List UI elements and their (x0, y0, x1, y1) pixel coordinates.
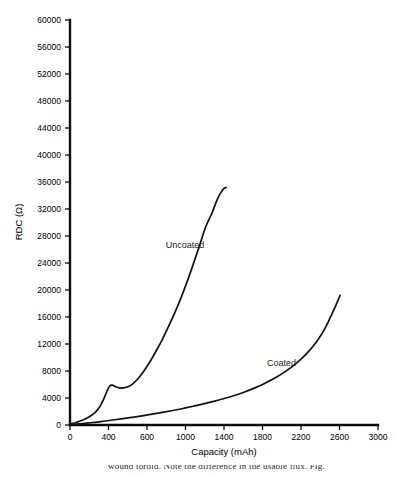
x-tick-label: 1800 (253, 432, 272, 442)
x-tick-label: 3000 (369, 432, 388, 442)
y-tick-label: 60000 (37, 15, 61, 25)
series-label-uncoated: Uncoated (166, 240, 205, 250)
y-axis-tick-labels: 0400080001200016000200002400028000320003… (37, 15, 61, 430)
y-tick-label: 44000 (37, 123, 61, 133)
series-label-coated: Coated (267, 358, 296, 368)
y-tick-label: 40000 (37, 150, 61, 160)
y-tick-label: 12000 (37, 339, 61, 349)
x-axis-title: Capacity (mAh) (191, 446, 256, 457)
x-tick-label: 600 (140, 432, 154, 442)
y-tick-label: 52000 (37, 69, 61, 79)
y-tick-label: 32000 (37, 204, 61, 214)
x-tick-label: 1400 (215, 432, 234, 442)
y-tick-label: 16000 (37, 312, 61, 322)
x-tick-label: 2200 (292, 432, 311, 442)
y-tick-label: 24000 (37, 258, 61, 268)
y-tick-label: 20000 (37, 285, 61, 295)
chart-canvas: 0400080001200016000200002400028000320003… (0, 0, 397, 477)
y-tick-label: 48000 (37, 96, 61, 106)
x-tick-label: 0 (68, 432, 73, 442)
data-series-group (71, 187, 340, 424)
series-line-coated (71, 295, 340, 424)
y-tick-label: 28000 (37, 231, 61, 241)
chart-figure: 0400080001200016000200002400028000320003… (0, 0, 397, 477)
y-tick-label: 4000 (42, 393, 61, 403)
x-axis-tick-labels: 0400600100014001800220026003000 (68, 432, 388, 442)
y-tick-label: 56000 (37, 42, 61, 52)
caption-fragment: wound toroid. Note the difference in the… (108, 465, 325, 471)
y-tick-label: 36000 (37, 177, 61, 187)
x-tick-label: 1000 (176, 432, 195, 442)
y-tick-label: 8000 (42, 366, 61, 376)
y-axis-title: RDC (Ω) (13, 204, 24, 241)
series-line-uncoated (71, 187, 226, 424)
y-tick-label: 0 (56, 420, 61, 430)
x-tick-label: 2600 (330, 432, 349, 442)
series-annotation-group: UncoatedCoated (166, 240, 296, 367)
caption-strip: wound toroid. Note the difference in the… (0, 465, 397, 477)
x-tick-label: 400 (101, 432, 115, 442)
